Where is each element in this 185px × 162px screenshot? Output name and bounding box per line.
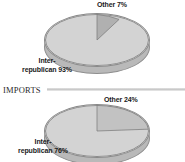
data-label-interrepublican-imports: Inter-republican 76% [10, 138, 76, 155]
pie-chart-imports: Other 24% Inter-republican 76% [0, 96, 185, 162]
data-label-interrepublican-exports: Inter-republican 93% [14, 57, 80, 74]
section-header-imports: IMPORTS [0, 83, 185, 96]
pie-chart-exports: Other 7% Inter-republican 93% [0, 0, 185, 82]
data-label-line2: republican 93% [22, 66, 72, 73]
data-label-other-imports: Other 24% [104, 96, 138, 105]
data-label-other-exports: Other 7% [97, 1, 127, 10]
data-label-line1: Inter- [35, 138, 52, 145]
section-title-text: IMPORTS [0, 85, 47, 95]
data-label-line1: Inter- [39, 57, 56, 64]
data-label-line2: republican 76% [18, 147, 68, 154]
pie-slice-other-imports [97, 105, 148, 131]
section-divider-rule [47, 88, 185, 91]
